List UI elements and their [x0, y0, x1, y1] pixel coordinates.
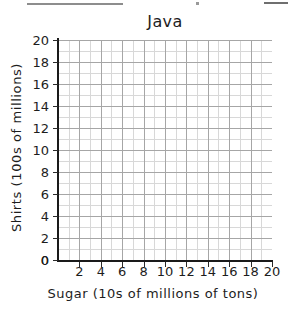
- y-tick-label: 2: [19, 232, 49, 245]
- y-axis-title: Shirts (100s of millions): [9, 48, 24, 248]
- y-tick-label: 4: [19, 210, 49, 223]
- y-tick-mark: [53, 216, 58, 217]
- y-tick-mark: [53, 106, 58, 107]
- y-tick-label: 18: [19, 56, 49, 69]
- x-tick-label: 20: [257, 265, 287, 278]
- y-tick-mark: [53, 172, 58, 173]
- y-tick-mark: [53, 194, 58, 195]
- y-tick-mark: [53, 260, 58, 261]
- x-axis-title: Sugar (10s of millions of tons): [28, 286, 278, 301]
- plot-area: [58, 40, 272, 260]
- y-tick-label: 16: [19, 78, 49, 91]
- origin-tick-label: 0: [19, 254, 49, 267]
- chart-title: Java: [58, 12, 272, 31]
- y-tick-label: 8: [19, 166, 49, 179]
- y-tick-mark: [53, 84, 58, 85]
- y-tick-mark: [53, 150, 58, 151]
- y-tick-mark: [53, 40, 58, 41]
- y-tick-label: 12: [19, 122, 49, 135]
- y-tick-mark: [53, 62, 58, 63]
- plot-series-layer: [58, 40, 272, 260]
- y-tick-label: 6: [19, 188, 49, 201]
- y-tick-label: 10: [19, 144, 49, 157]
- y-tick-mark: [53, 128, 58, 129]
- y-tick-label: 14: [19, 100, 49, 113]
- y-tick-label: 20: [19, 34, 49, 47]
- y-tick-mark: [53, 238, 58, 239]
- chart-figure: Java 024681012141618200 2468101214161820…: [0, 0, 290, 317]
